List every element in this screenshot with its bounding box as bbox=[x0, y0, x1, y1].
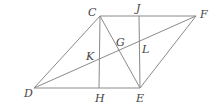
label-C: C bbox=[88, 6, 97, 19]
label-D: D bbox=[23, 87, 33, 100]
geometry-diagram: CJFDHEGKL bbox=[0, 0, 221, 112]
segment-DF bbox=[34, 16, 196, 88]
label-F: F bbox=[199, 8, 208, 21]
label-H: H bbox=[94, 92, 105, 105]
label-G: G bbox=[116, 36, 125, 49]
label-J: J bbox=[134, 2, 141, 15]
point-labels: CJFDHEGKL bbox=[23, 2, 208, 105]
segment-CE bbox=[100, 16, 140, 88]
segments bbox=[34, 16, 196, 88]
label-K: K bbox=[85, 50, 95, 63]
segment-JE bbox=[139, 16, 140, 88]
label-L: L bbox=[141, 43, 149, 56]
label-E: E bbox=[135, 92, 144, 105]
segment-CH bbox=[99, 16, 100, 88]
